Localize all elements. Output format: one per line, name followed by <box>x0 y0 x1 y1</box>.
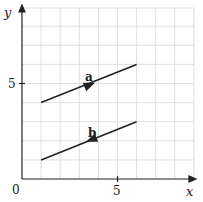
diagram-canvas: y x 0 5 5 a b <box>0 0 203 202</box>
origin-label: 0 <box>12 183 20 197</box>
y-tick-label-5: 5 <box>8 77 16 91</box>
y-axis-arrow-icon <box>19 5 25 12</box>
vector-a-arrow-icon <box>84 84 93 90</box>
vector-b-label: b <box>88 126 96 140</box>
vector-a-label: a <box>85 70 93 84</box>
x-axis-arrow-icon <box>189 176 196 182</box>
x-tick-label-5: 5 <box>113 184 121 198</box>
vector-diagram: y x 0 5 5 a b <box>0 0 203 202</box>
y-axis-label: y <box>3 5 12 20</box>
grid <box>22 8 194 179</box>
x-axis-label: x <box>186 184 194 199</box>
axes <box>19 5 196 182</box>
